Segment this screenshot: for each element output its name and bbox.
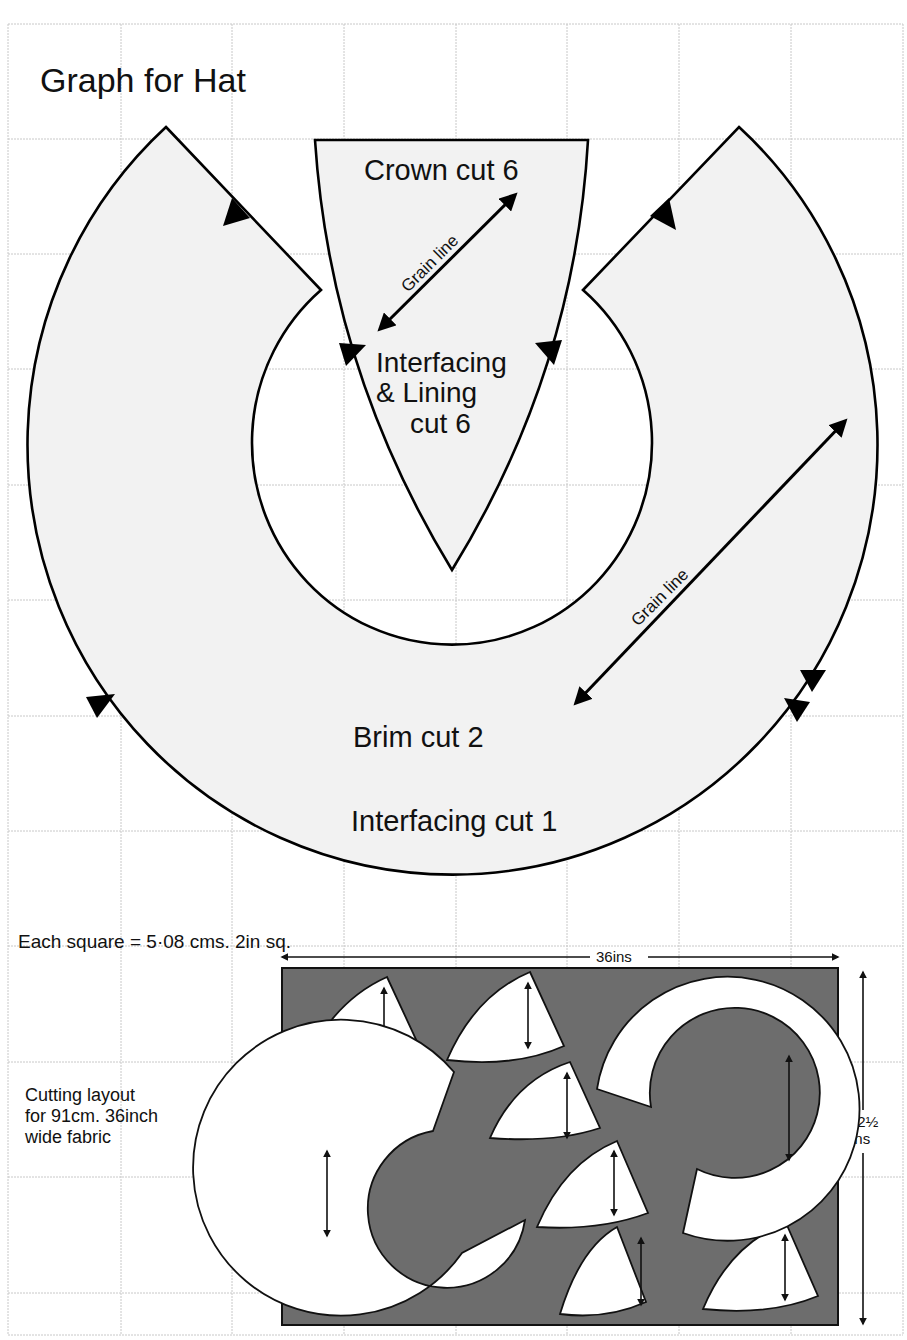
cutting-layout-caption-line3: wide fabric (24, 1127, 111, 1147)
crown-lining-label-line3: cut 6 (410, 408, 471, 439)
brim-label: Brim cut 2 (353, 721, 484, 753)
brim-interfacing-label: Interfacing cut 1 (351, 805, 557, 837)
cutting-layout-caption-line2: for 91cm. 36inch (25, 1106, 158, 1126)
scale-note: Each square = 5·08 cms. 2in sq. (18, 931, 291, 952)
brim-notch-icon (86, 694, 115, 718)
crown-label: Crown cut 6 (364, 154, 519, 186)
diagram-title: Graph for Hat (40, 61, 247, 99)
cutting-layout-caption-line1: Cutting layout (25, 1085, 135, 1105)
hat-pattern-diagram: Graph for Hat Grain line Crown cut 6 Int… (0, 0, 907, 1340)
fabric-width-label: 36ins (596, 948, 632, 965)
crown-lining-label-line1: Interfacing (376, 347, 507, 378)
crown-lining-label-line2: & Lining (376, 377, 477, 408)
